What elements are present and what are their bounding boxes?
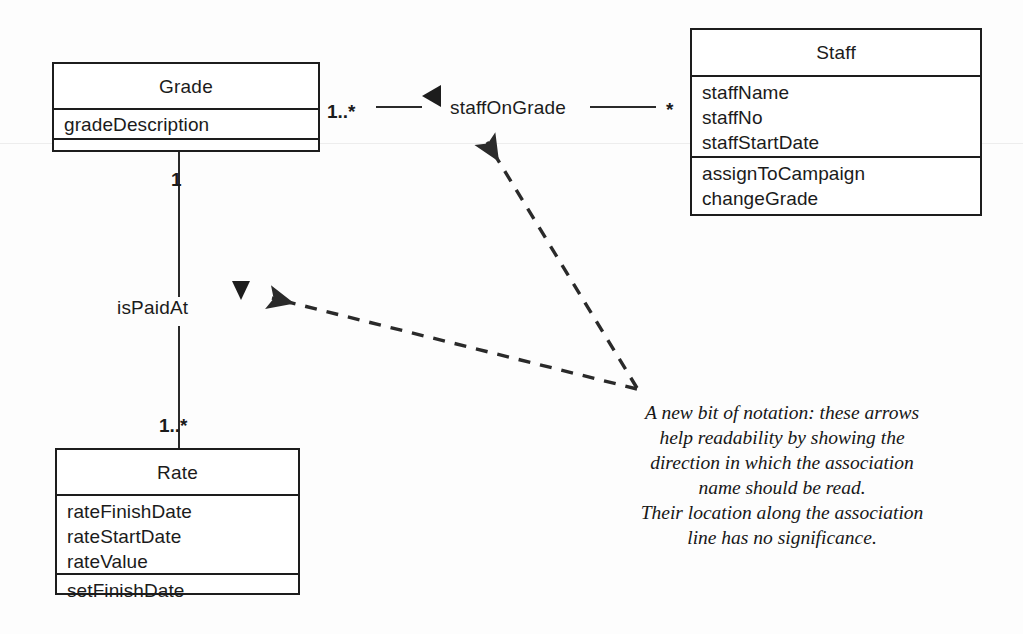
association-name-staff-on-grade: staffOnGrade [450, 98, 566, 117]
operations-compartment-rate: setFinishDate [57, 573, 298, 603]
attribute-item: staffNo [692, 105, 980, 130]
class-box-grade[interactable]: Grade gradeDescription [52, 62, 320, 152]
attributes-compartment-staff: staffName staffNo staffStartDate [692, 75, 980, 156]
operation-item: changeGrade [692, 186, 980, 211]
association-name-is-paid-at: isPaidAt [117, 298, 188, 317]
class-name-rate: Rate [57, 450, 298, 494]
note-line: name should be read. [596, 475, 968, 500]
note-line: Their location along the association [596, 500, 968, 525]
note-line: direction in which the association [596, 450, 968, 475]
note-line: A new bit of notation: these arrows [596, 400, 968, 425]
class-name-grade: Grade [54, 64, 318, 108]
multiplicity-grade-staff-on-grade: 1..* [327, 102, 356, 121]
operations-compartment-staff: assignToCampaign changeGrade [692, 156, 980, 214]
operation-item: assignToCampaign [692, 161, 980, 186]
operations-compartment-grade [54, 138, 318, 150]
class-box-rate[interactable]: Rate rateFinishDate rateStartDate rateVa… [55, 448, 300, 595]
class-box-staff[interactable]: Staff staffName staffNo staffStartDate a… [690, 28, 982, 216]
class-name-staff: Staff [692, 30, 980, 75]
association-line-staff-on-grade-right [590, 106, 656, 108]
association-line-staff-on-grade-left [376, 106, 422, 108]
attributes-compartment-grade: gradeDescription [54, 108, 318, 138]
multiplicity-grade-is-paid-at: 1 [171, 170, 182, 189]
uml-diagram-canvas: Grade gradeDescription Staff staffName s… [0, 0, 1023, 634]
note-line: help readability by showing the [596, 425, 968, 450]
attributes-compartment-rate: rateFinishDate rateStartDate rateValue [57, 494, 298, 573]
attribute-item: rateValue [57, 549, 298, 574]
attribute-item: staffName [692, 80, 980, 105]
multiplicity-staff-staff-on-grade: * [666, 100, 673, 119]
direction-triangle-icon-staff-on-grade [422, 85, 441, 107]
pointer-arrow-to-staff-on-grade [487, 142, 637, 388]
attribute-item: rateFinishDate [57, 499, 298, 524]
notation-explanation-note: A new bit of notation: these arrows help… [596, 400, 968, 550]
note-line: line has no significance. [596, 525, 968, 550]
operation-item: setFinishDate [57, 578, 298, 603]
pointer-arrow-to-is-paid-at [272, 298, 637, 389]
direction-triangle-icon-is-paid-at [232, 281, 250, 300]
attribute-item: rateStartDate [57, 524, 298, 549]
multiplicity-rate-is-paid-at: 1..* [159, 416, 188, 435]
attribute-item: gradeDescription [54, 112, 318, 137]
attribute-item: staffStartDate [692, 130, 980, 155]
